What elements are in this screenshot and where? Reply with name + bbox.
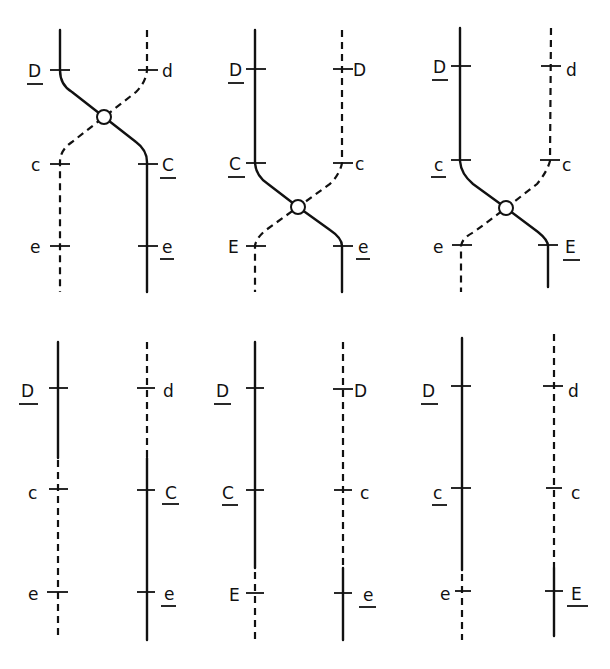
gene-label: d (566, 60, 577, 80)
gene-label: D (28, 61, 41, 81)
chiasma-icon (499, 201, 513, 215)
gene-label: e (433, 237, 443, 257)
chiasma-icon (97, 110, 111, 124)
gene-label: e (28, 584, 38, 604)
crossover-diagram: D c e d C e D C E D c e (0, 0, 610, 669)
dashed-strand (255, 30, 342, 292)
dashed-strand (461, 28, 551, 292)
gene-label: C (165, 483, 177, 503)
gene-label: d (162, 61, 173, 81)
gene-label: c (31, 155, 40, 175)
gene-label: c (360, 483, 369, 503)
solid-strand (60, 30, 147, 292)
gene-label: E (228, 237, 239, 257)
solid-strand (255, 30, 342, 292)
gene-label: D (422, 381, 435, 401)
panel-bottom-3: D c e d c E (421, 334, 588, 640)
panel-bottom-1: D c e d C e (19, 342, 179, 640)
gene-label: e (358, 237, 368, 257)
gene-label: C (229, 154, 241, 174)
gene-label: D (21, 381, 34, 401)
gene-label: e (162, 237, 172, 257)
gene-label: d (163, 381, 174, 401)
gene-label: e (164, 584, 174, 604)
panel-top-2: D C E D c e (228, 30, 370, 292)
gene-label: D (353, 60, 366, 80)
gene-label: e (30, 237, 40, 257)
solid-strand (460, 28, 548, 287)
gene-label: D (216, 381, 229, 401)
gene-label: e (363, 585, 373, 605)
gene-label: C (222, 483, 234, 503)
gene-label: D (433, 57, 446, 77)
gene-label: c (434, 155, 443, 175)
gene-label: e (440, 584, 450, 604)
gene-label: c (562, 155, 571, 175)
gene-label: c (28, 483, 37, 503)
gene-label: d (568, 381, 579, 401)
gene-label: E (229, 585, 240, 605)
gene-label: E (565, 237, 576, 257)
gene-label: c (571, 483, 580, 503)
dashed-strand (60, 30, 147, 292)
gene-label: c (355, 154, 364, 174)
gene-label: E (571, 584, 582, 604)
gene-label: D (354, 381, 367, 401)
gene-label: C (162, 155, 174, 175)
gene-label: D (229, 60, 242, 80)
panel-top-3: D c e d c E (431, 28, 580, 292)
panel-top-1: D c e d C e (27, 30, 176, 292)
panel-bottom-2: D C E D c e (214, 342, 376, 640)
chiasma-icon (291, 200, 305, 214)
gene-label: c (433, 483, 442, 503)
